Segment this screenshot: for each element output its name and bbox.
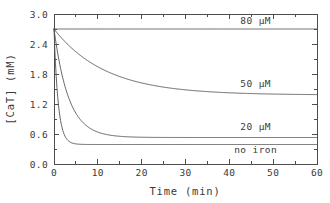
y-tick-label: 2.4: [30, 39, 48, 50]
chart-figure: 0102030405060 0.00.61.21.82.43.0 80 μM50…: [0, 0, 330, 203]
data-curves: [54, 29, 317, 145]
x-axis-title: Time (min): [149, 185, 220, 197]
y-tick-label: 1.2: [30, 99, 48, 110]
x-tick-label: 20: [136, 167, 148, 178]
x-tick-label: 30: [179, 167, 191, 178]
series-label: no iron: [234, 144, 277, 155]
major-ticks: [54, 14, 317, 164]
x-tick-label: 0: [51, 167, 57, 178]
minor-ticks: [54, 14, 317, 164]
y-tick-label: 0.0: [30, 159, 48, 170]
x-tick-label: 60: [311, 167, 323, 178]
y-tick-label: 1.8: [30, 69, 48, 80]
y-axis-tick-labels: 0.00.61.21.82.43.0: [30, 9, 48, 170]
y-axis-title: [CaT] (mM): [4, 53, 16, 124]
x-tick-label: 50: [267, 167, 279, 178]
curve-labels: 80 μM50 μM20 μMno iron: [234, 15, 277, 155]
y-tick-label: 3.0: [30, 9, 48, 20]
y-tick-label: 0.6: [30, 129, 48, 140]
x-tick-label: 10: [92, 167, 104, 178]
concentration-decay-chart: 0102030405060 0.00.61.21.82.43.0 80 μM50…: [0, 0, 330, 203]
series-label: 50 μM: [240, 78, 271, 89]
x-tick-label: 40: [223, 167, 235, 178]
series-label: 20 μM: [240, 121, 271, 132]
series-curve: [54, 29, 317, 145]
x-axis-tick-labels: 0102030405060: [51, 167, 323, 178]
series-curve: [54, 29, 317, 95]
series-label: 80 μM: [240, 15, 271, 26]
series-curve: [54, 29, 317, 138]
plot-frame: [54, 14, 317, 164]
